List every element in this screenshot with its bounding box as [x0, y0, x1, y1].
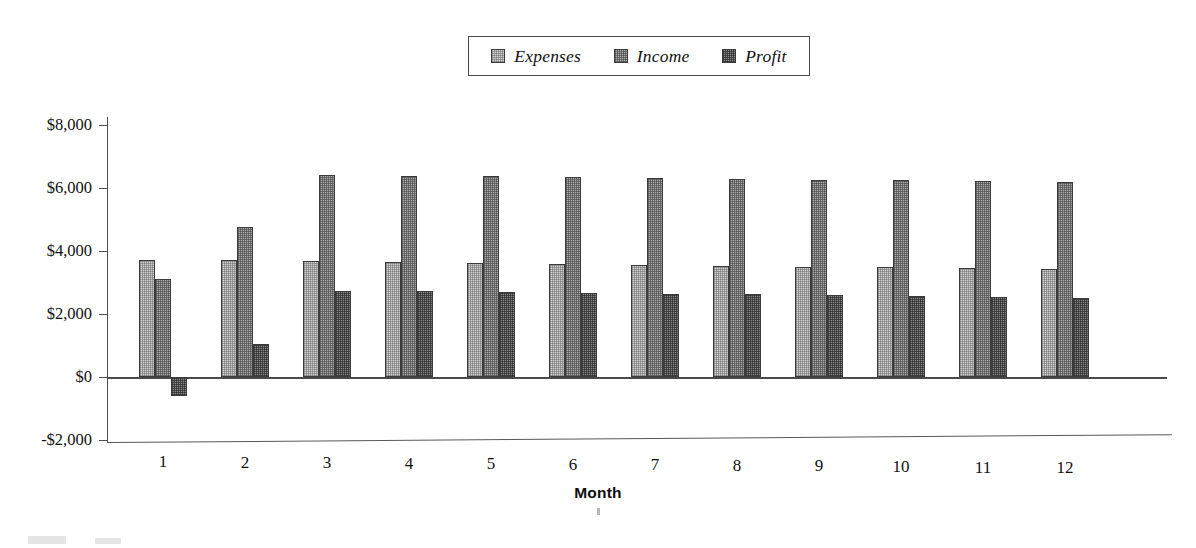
bar-income-month-4: [401, 176, 417, 377]
bar-profit-month-1: [171, 377, 187, 396]
bar-expenses-month-1: [139, 260, 155, 377]
bar-profit-month-5: [499, 292, 515, 377]
bar-expenses-month-7: [631, 265, 647, 377]
bar-income-month-5: [483, 176, 499, 377]
bar-profit-month-9: [827, 295, 843, 377]
bar-income-month-9: [811, 180, 827, 377]
x-axis-tick-label: 8: [733, 456, 742, 476]
bar-expenses-month-6: [549, 264, 565, 377]
bar-income-month-12: [1057, 182, 1073, 377]
bar-expenses-month-5: [467, 263, 483, 377]
bar-profit-month-12: [1073, 298, 1089, 377]
bar-expenses-month-8: [713, 266, 729, 377]
bars-layer: [0, 0, 1196, 548]
x-axis-tick-label: 11: [975, 458, 991, 478]
bar-income-month-7: [647, 178, 663, 377]
bar-expenses-month-11: [959, 268, 975, 377]
scan-artifact: [95, 538, 121, 544]
bar-profit-month-11: [991, 297, 1007, 377]
x-axis-tick-label: 12: [1057, 458, 1074, 478]
x-axis-tick-label: 10: [893, 457, 910, 477]
bar-expenses-month-4: [385, 262, 401, 377]
bar-income-month-2: [237, 227, 253, 377]
scan-artifact: [597, 508, 600, 515]
plot-area: $8,000$6,000$4,000$2,000$0-$2,000 123456…: [0, 0, 1196, 548]
bar-income-month-6: [565, 177, 581, 377]
bar-profit-month-3: [335, 291, 351, 377]
x-axis-tick-label: 7: [651, 455, 660, 475]
bar-income-month-1: [155, 279, 171, 377]
x-axis-title: Month: [574, 484, 621, 502]
bar-profit-month-8: [745, 294, 761, 377]
x-axis-tick-label: 3: [323, 453, 332, 473]
bar-income-month-3: [319, 175, 335, 377]
bar-chart: Expenses Income Profit $8,000$6,000$4,00…: [0, 0, 1196, 548]
bar-income-month-10: [893, 180, 909, 377]
x-axis-tick-label: 1: [159, 452, 168, 472]
bar-expenses-month-9: [795, 267, 811, 377]
bar-profit-month-6: [581, 293, 597, 377]
bar-expenses-month-2: [221, 260, 237, 377]
bar-profit-month-2: [253, 344, 269, 377]
x-axis-tick-label: 9: [815, 456, 824, 476]
bar-profit-month-10: [909, 296, 925, 377]
bar-profit-month-4: [417, 291, 433, 377]
bar-profit-month-7: [663, 294, 679, 377]
bar-income-month-11: [975, 181, 991, 377]
x-axis-tick-label: 5: [487, 454, 496, 474]
bar-income-month-8: [729, 179, 745, 377]
bar-expenses-month-12: [1041, 269, 1057, 377]
bar-expenses-month-3: [303, 261, 319, 377]
x-axis-tick-label: 4: [405, 454, 414, 474]
scan-artifact: [28, 536, 66, 544]
bar-expenses-month-10: [877, 267, 893, 377]
x-axis-tick-label: 6: [569, 455, 578, 475]
x-axis-tick-label: 2: [241, 453, 250, 473]
